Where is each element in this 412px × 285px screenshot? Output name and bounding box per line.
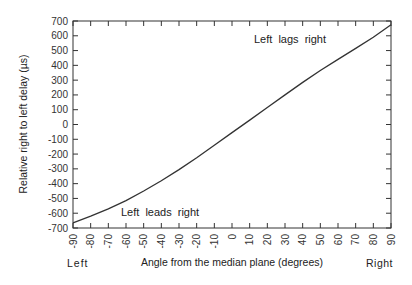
annotation-left-leads-right: Left leads right <box>121 206 199 218</box>
y-tick-label: 400 <box>51 60 68 71</box>
x-tick-label: 50 <box>315 234 326 246</box>
y-tick-label: -200 <box>48 149 68 160</box>
x-tick-label: -80 <box>85 234 96 249</box>
y-tick-label: -400 <box>48 178 68 189</box>
x-tick-label: -10 <box>209 234 220 249</box>
x-end-label-right: Right <box>366 257 393 269</box>
y-tick-label: 600 <box>51 30 68 41</box>
x-tick-label: -70 <box>103 234 114 249</box>
y-tick-label: -100 <box>48 134 68 145</box>
plot-frame <box>73 21 391 228</box>
x-tick-label: -90 <box>68 234 79 249</box>
y-tick-label: 700 <box>51 16 68 27</box>
x-axis-title: Angle from the median plane (degrees) <box>141 256 323 268</box>
x-tick-label: -50 <box>138 234 149 249</box>
x-tick-label: 70 <box>350 234 361 246</box>
y-tick-label: 200 <box>51 89 68 100</box>
x-tick-label: -60 <box>121 234 132 249</box>
x-tick-label: 0 <box>227 234 238 240</box>
annotation-left-lags-right: Left lags right <box>254 33 326 45</box>
y-tick-label: 0 <box>62 119 68 130</box>
x-end-label-left: Left <box>67 257 89 269</box>
y-tick-label: -300 <box>48 163 68 174</box>
x-tick-label: 30 <box>280 234 291 246</box>
x-tick-label: 80 <box>368 234 379 246</box>
x-tick-label: -40 <box>156 234 167 249</box>
itd-chart: -700-600-500-400-300-200-100010020030040… <box>0 0 412 285</box>
x-tick-label: 20 <box>262 234 273 246</box>
x-tick-label: 90 <box>386 234 397 246</box>
y-tick-label: 100 <box>51 104 68 115</box>
x-tick-label: 10 <box>244 234 255 246</box>
x-tick-label: -30 <box>174 234 185 249</box>
y-tick-label: -500 <box>48 193 68 204</box>
y-tick-label: 500 <box>51 45 68 56</box>
y-tick-label: -700 <box>48 223 68 234</box>
x-tick-label: 60 <box>333 234 344 246</box>
x-tick-label: -20 <box>191 234 202 249</box>
x-tick-label: 40 <box>297 234 308 246</box>
y-tick-label: 300 <box>51 75 68 86</box>
y-axis-title: Relative right to left delay (µs) <box>17 54 29 193</box>
y-tick-label: -600 <box>48 208 68 219</box>
itd-curve <box>73 25 391 223</box>
